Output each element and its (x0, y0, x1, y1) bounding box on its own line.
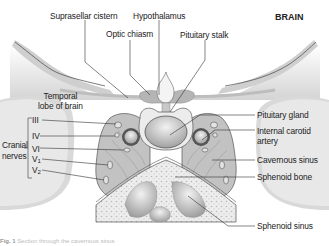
label-pituitary-stalk: Pituitary stalk (180, 31, 228, 39)
label-nerve-iii: III (32, 116, 39, 124)
label-nerve-v2: V2 (32, 166, 41, 175)
label-internal-carotid-artery: Internal carotid artery (257, 126, 311, 146)
anatomy-diagram: BRAIN Suprasellar cistern Hypothalamus O… (0, 0, 329, 246)
label-optic-chiasm: Optic chiasm (106, 30, 153, 38)
label-nerve-v1: V1 (32, 155, 41, 164)
label-suprasellar-cistern: Suprasellar cistern (50, 12, 117, 20)
diagram-title: BRAIN (275, 12, 304, 22)
pituitary-gland (145, 116, 187, 148)
figure-caption: Fig. 1 Section through the cavernous sin… (0, 238, 114, 244)
label-nerve-vi: VI (32, 145, 40, 153)
label-cranial-nerves: Cranial nerves (2, 140, 28, 161)
hypothalamus (157, 72, 174, 103)
label-sphenoid-bone: Sphenoid bone (257, 173, 312, 181)
label-hypothalamus: Hypothalamus (133, 12, 185, 20)
label-pituitary-gland: Pituitary gland (257, 111, 309, 119)
cavernous-sinus-illustration (0, 0, 329, 246)
label-sphenoid-sinus: Sphenoid sinus (257, 222, 313, 230)
internal-carotid-right (192, 128, 210, 146)
label-nerve-iv: IV (32, 132, 40, 140)
label-cavernous-sinus: Cavernous sinus (257, 156, 318, 164)
label-temporal-lobe: Temporal lobe of brain (38, 91, 83, 111)
internal-carotid-left (122, 128, 140, 146)
